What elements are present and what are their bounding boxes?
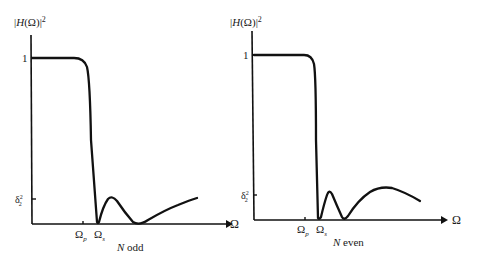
- x-tick-stop-label: Ωs: [94, 228, 105, 243]
- y-axis: [31, 35, 32, 224]
- response-curve: [32, 58, 197, 224]
- y-tick-one-label: 1: [243, 49, 249, 61]
- x-axis-label: Ω: [452, 213, 461, 227]
- y-tick-delta-label: δ22: [241, 190, 249, 203]
- plot-n-odd: |H(Ω)|2 1 δ22 Ω Ωp Ωs N odd: [14, 15, 239, 253]
- x-tick-stop-label: Ωs: [316, 223, 327, 238]
- x-tick-pass-label: Ωp: [297, 223, 309, 238]
- diagram-canvas: |H(Ω)|2 1 δ22 Ω Ωp Ωs N odd: [0, 0, 477, 262]
- caption: N even: [332, 236, 364, 248]
- y-axis-label: |H(Ω)|2: [230, 15, 262, 29]
- x-axis-arrow-icon: [441, 216, 448, 224]
- y-tick-one-label: 1: [22, 52, 28, 64]
- y-tick-delta-label: δ22: [15, 194, 23, 207]
- response-curve: [254, 55, 420, 219]
- y-axis-label: |H(Ω)|2: [14, 15, 46, 29]
- caption: N odd: [116, 241, 144, 253]
- x-tick-pass-label: Ωp: [75, 228, 87, 243]
- plot-n-even: |H(Ω)|2 1 δ22 Ω Ωp Ωs N even: [230, 15, 461, 248]
- x-axis-label: Ω: [230, 217, 239, 231]
- y-axis: [252, 31, 254, 220]
